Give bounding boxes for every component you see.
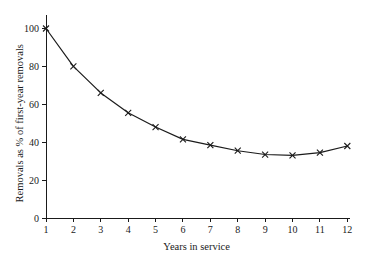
- y-tick-label: 0: [34, 213, 39, 224]
- data-point-marker: [125, 110, 131, 116]
- y-tick-label: 60: [29, 99, 39, 110]
- x-tick-label: 5: [153, 224, 158, 235]
- x-axis-ticks: 123456789101112: [44, 218, 353, 235]
- y-axis-title: Removals as % of first-year removals: [14, 44, 25, 202]
- x-tick-label: 7: [208, 224, 213, 235]
- x-tick-label: 1: [44, 224, 49, 235]
- y-axis-ticks: 020406080100: [24, 23, 46, 224]
- x-tick-label: 2: [71, 224, 76, 235]
- x-tick-label: 10: [288, 224, 298, 235]
- y-tick-label: 40: [29, 137, 39, 148]
- y-tick-label: 20: [29, 175, 39, 186]
- x-axis-title: Years in service: [163, 241, 230, 252]
- data-point-marker: [70, 63, 76, 69]
- x-tick-label: 9: [263, 224, 268, 235]
- data-point-marker: [153, 124, 159, 130]
- x-tick-label: 12: [342, 224, 352, 235]
- x-tick-label: 11: [315, 224, 325, 235]
- series-line: [46, 29, 347, 156]
- data-point-markers: [43, 26, 350, 159]
- data-point-marker: [98, 90, 104, 96]
- y-tick-label: 100: [24, 23, 39, 34]
- line-chart: 020406080100 123456789101112 Years in se…: [0, 0, 368, 263]
- x-tick-label: 6: [180, 224, 185, 235]
- x-tick-label: 3: [98, 224, 103, 235]
- x-tick-label: 8: [235, 224, 240, 235]
- x-tick-label: 4: [126, 224, 131, 235]
- y-tick-label: 80: [29, 61, 39, 72]
- chart-container: 020406080100 123456789101112 Years in se…: [0, 0, 368, 263]
- axes: [46, 15, 350, 219]
- data-series: [43, 26, 350, 159]
